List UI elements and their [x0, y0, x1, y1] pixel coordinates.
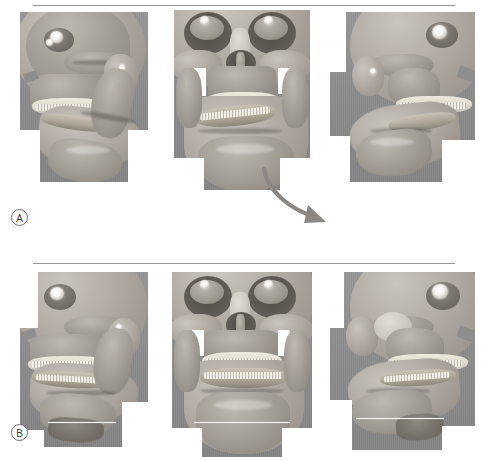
right-ramus-bone	[282, 68, 308, 128]
panel-a-left-lateral-view	[20, 12, 148, 182]
render-crop	[20, 272, 38, 328]
render-crop	[330, 12, 346, 72]
render-crop	[160, 428, 202, 457]
metal-artifact	[200, 16, 209, 25]
bone-highlight	[214, 400, 272, 410]
chin-reference-line	[356, 418, 444, 419]
render-crop	[442, 140, 475, 182]
metal-artifact	[370, 68, 376, 75]
bone-highlight	[370, 138, 414, 146]
left-ramus-bone	[174, 330, 200, 392]
panel-b-frontal-view	[160, 272, 322, 457]
render-crop	[330, 400, 352, 450]
metal-artifact	[432, 284, 448, 299]
metal-artifact	[264, 16, 273, 25]
panel-a: A	[0, 0, 485, 258]
render-crop	[122, 402, 148, 447]
chin-reference-line	[194, 422, 290, 423]
panel-b-right-lateral-view	[330, 272, 475, 450]
panel-b: B	[0, 262, 485, 460]
chin-reference-line	[48, 422, 116, 423]
panel-label-b: B	[11, 424, 28, 441]
render-crop	[128, 130, 148, 182]
bone-highlight	[216, 144, 274, 154]
metal-artifact	[46, 39, 53, 46]
render-crop	[442, 426, 475, 450]
panel-a-frontal-view	[160, 10, 322, 190]
left-ramus-bone	[176, 68, 202, 128]
figure-root: A	[0, 0, 485, 460]
condyle-bone	[346, 316, 378, 356]
bone-shading	[198, 128, 282, 134]
metal-artifact	[50, 287, 64, 300]
render-crop	[20, 130, 40, 182]
mandibular-teeth	[204, 372, 282, 379]
panel-b-left-lateral-view	[20, 272, 148, 447]
panel-label-a: A	[11, 209, 28, 226]
metal-artifact	[200, 280, 209, 289]
panel-a-right-lateral-view	[330, 12, 475, 182]
condyle-bone	[352, 56, 384, 96]
render-crop	[282, 428, 322, 457]
render-crop	[160, 158, 204, 190]
bone-highlight	[66, 146, 110, 154]
right-ramus-bone	[284, 330, 310, 392]
mandibular-deviation-arrow	[258, 165, 350, 233]
metal-artifact	[264, 280, 273, 289]
render-crop	[330, 272, 344, 328]
metal-artifact	[432, 25, 447, 39]
